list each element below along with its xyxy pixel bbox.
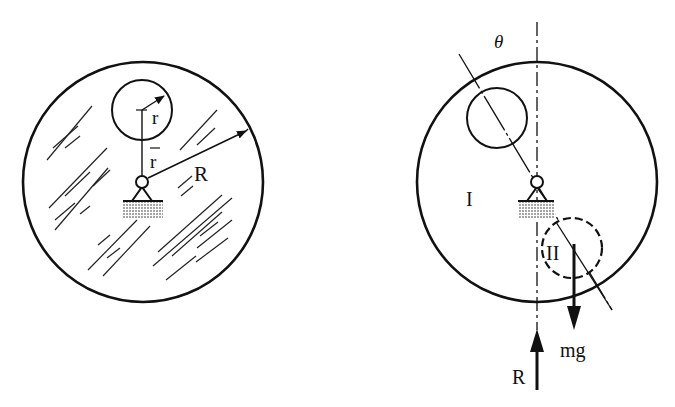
label-region-II: II	[546, 242, 559, 264]
diagram-canvas: r r R θ I II	[0, 0, 675, 407]
right-figure: θ I II mg R	[417, 22, 657, 390]
label-region-I: I	[466, 188, 473, 210]
left-figure: r r R	[23, 62, 263, 302]
label-r-bar: r	[150, 151, 157, 172]
pivot-support-left	[123, 176, 163, 218]
label-large-R: R	[194, 162, 208, 186]
label-reaction-R: R	[512, 366, 526, 388]
label-theta: θ	[494, 31, 503, 52]
label-mg: mg	[560, 339, 586, 362]
label-small-r: r	[152, 107, 159, 128]
